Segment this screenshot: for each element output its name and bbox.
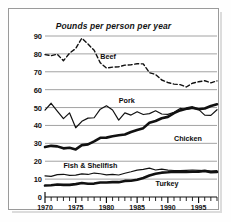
series-line-beef <box>45 38 217 87</box>
chart-screenshot: Pounds per person per year 0102030405060… <box>0 0 231 222</box>
series-label-fish-shellfish: Fish & Shellfish <box>63 161 117 170</box>
chart-title: Pounds per person per year <box>9 21 218 31</box>
x-tick-label: 1995 <box>191 204 207 211</box>
y-tick-label: 30 <box>34 139 42 148</box>
chart-frame: Pounds per person per year 0102030405060… <box>8 8 219 210</box>
x-tick-label: 1975 <box>68 204 84 211</box>
series-line-turkey <box>45 171 217 186</box>
y-tick-label: 10 <box>34 175 42 184</box>
y-tick-label: 60 <box>34 85 42 94</box>
series-label-chicken: Chicken <box>174 134 202 143</box>
y-tick-label: 80 <box>34 49 42 58</box>
x-tick-label: 1970 <box>37 204 53 211</box>
series-label-beef: Beef <box>100 52 116 61</box>
y-tick-label: 90 <box>34 32 42 41</box>
y-tick-label: 0 <box>38 193 42 202</box>
plot-svg <box>45 36 217 197</box>
y-tick-label: 20 <box>34 157 42 166</box>
x-tick-label: 1980 <box>99 204 115 211</box>
y-tick-label: 50 <box>34 103 42 112</box>
plot-area: 0102030405060708090 19701975198019851990… <box>45 36 217 197</box>
y-tick-label: 70 <box>34 67 42 76</box>
x-tick-label: 1990 <box>160 204 176 211</box>
x-tick-label: 1985 <box>129 204 145 211</box>
y-tick-label: 40 <box>34 121 42 130</box>
series-label-turkey: Turkey <box>156 179 179 188</box>
series-label-pork: Pork <box>119 96 135 105</box>
axis-tick-marks <box>45 192 217 203</box>
